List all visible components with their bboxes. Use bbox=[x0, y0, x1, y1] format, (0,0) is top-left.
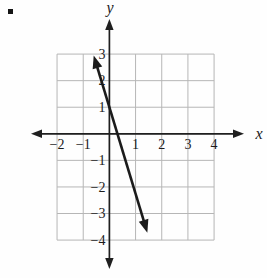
y-tick-label: −4 bbox=[90, 233, 105, 248]
y-axis-arrowhead bbox=[105, 258, 113, 269]
x-tick-label: 1 bbox=[132, 137, 139, 152]
graphed-line-arrowhead bbox=[139, 219, 149, 233]
y-tick-label: −3 bbox=[90, 206, 105, 221]
x-tick-label: 3 bbox=[184, 137, 191, 152]
y-tick-label: 3 bbox=[98, 47, 105, 62]
worksheet-page: −2−11234321−1−2−3−4 x y bbox=[0, 0, 267, 278]
y-tick-label: −2 bbox=[90, 180, 105, 195]
x-axis-letter: x bbox=[254, 125, 262, 142]
x-tick-label: 4 bbox=[211, 137, 218, 152]
y-axis-arrowhead bbox=[105, 19, 113, 30]
y-axis-letter: y bbox=[104, 0, 114, 17]
coordinate-graph: −2−11234321−1−2−3−4 x y bbox=[0, 0, 267, 278]
y-tick-label: 1 bbox=[98, 100, 105, 115]
x-tick-label: 2 bbox=[158, 137, 165, 152]
x-axis-arrowhead bbox=[233, 130, 244, 138]
x-tick-label: −2 bbox=[50, 137, 65, 152]
x-axis-arrowhead bbox=[31, 130, 42, 138]
y-tick-label: −1 bbox=[90, 153, 105, 168]
plot-layer: −2−11234321−1−2−3−4 bbox=[31, 19, 244, 269]
x-tick-label: −1 bbox=[76, 137, 91, 152]
